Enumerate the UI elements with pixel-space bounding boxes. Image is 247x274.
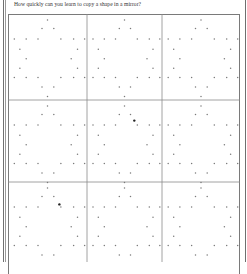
guide-dot <box>14 245 16 247</box>
guide-dot <box>237 163 239 165</box>
guide-dot <box>70 226 72 228</box>
guide-dot <box>37 206 39 208</box>
guide-dot <box>98 235 100 237</box>
guide-dot <box>70 58 72 60</box>
guide-dot <box>200 19 202 21</box>
guide-dot <box>206 196 208 198</box>
guide-dot <box>152 67 154 69</box>
guide-dot <box>37 124 39 126</box>
guide-dot <box>230 49 232 51</box>
guide-dot <box>200 105 202 107</box>
guide-dot <box>226 163 228 165</box>
guide-dot <box>92 163 94 165</box>
guide-dot <box>152 235 154 237</box>
guide-dot <box>41 114 43 116</box>
guide-dot <box>41 86 43 88</box>
guide-dot <box>214 206 216 208</box>
guide-dot <box>167 245 169 247</box>
guide-dot <box>159 245 161 247</box>
guide-dot <box>119 86 121 88</box>
guide-dot <box>14 38 16 40</box>
guide-dot <box>191 38 193 40</box>
guide-dot <box>206 254 208 256</box>
guide-dot <box>146 58 148 60</box>
guide-dot <box>191 245 193 247</box>
guide-dot <box>224 58 226 60</box>
guide-dot <box>200 96 202 98</box>
guide-dot <box>77 153 79 155</box>
marked-dot <box>58 203 60 205</box>
guide-dot <box>119 172 121 174</box>
guide-dot <box>41 254 43 256</box>
guide-dot <box>119 196 121 198</box>
guide-dot <box>237 124 239 126</box>
guide-dot <box>230 235 232 237</box>
star-cell-3-2 <box>92 187 160 256</box>
guide-dot <box>98 217 100 219</box>
guide-dot <box>25 206 27 208</box>
guide-dot <box>115 124 117 126</box>
guide-dot <box>226 206 228 208</box>
guide-dot <box>237 77 239 79</box>
guide-dot <box>149 124 151 126</box>
guide-dot <box>47 96 49 98</box>
guide-dot <box>230 135 232 137</box>
guide-dot <box>104 206 106 208</box>
guide-dot <box>173 49 175 51</box>
guide-dot <box>53 28 55 30</box>
guide-dot <box>206 172 208 174</box>
guide-dot <box>152 49 154 51</box>
guide-dot <box>130 28 132 30</box>
guide-dot <box>41 196 43 198</box>
guide-dot <box>47 187 49 189</box>
guide-dot <box>25 163 27 165</box>
star-cell-1-1 <box>14 19 86 97</box>
guide-dot <box>14 163 16 165</box>
guide-dot <box>159 124 161 126</box>
guide-dot <box>137 124 139 126</box>
guide-dot <box>173 235 175 237</box>
guide-dot <box>60 38 62 40</box>
guide-dot <box>115 245 117 247</box>
guide-dot <box>60 206 62 208</box>
guide-dot <box>179 124 181 126</box>
guide-dot <box>179 163 181 165</box>
guide-dot <box>230 67 232 69</box>
guide-dot <box>191 206 193 208</box>
guide-dot <box>206 114 208 116</box>
star-cell-3-1 <box>14 187 86 256</box>
guide-dot <box>119 114 121 116</box>
guide-dot <box>41 28 43 30</box>
guide-dot <box>237 245 239 247</box>
guide-dot <box>130 196 132 198</box>
guide-dot <box>60 245 62 247</box>
guide-dot <box>130 254 132 256</box>
guide-dot <box>53 114 55 116</box>
guide-dot <box>195 28 197 30</box>
guide-dot <box>104 245 106 247</box>
guide-dot <box>159 77 161 79</box>
guide-dot <box>25 226 27 228</box>
guide-dot <box>115 206 117 208</box>
guide-dot <box>104 124 106 126</box>
guide-dot <box>224 144 226 146</box>
guide-dot <box>73 38 75 40</box>
guide-dot <box>200 187 202 189</box>
guide-dot <box>37 38 39 40</box>
guide-dot <box>173 67 175 69</box>
guide-dot <box>98 135 100 137</box>
guide-dot <box>19 217 21 219</box>
guide-dot <box>226 124 228 126</box>
guide-dot <box>19 235 21 237</box>
guide-dot <box>104 58 106 60</box>
guide-dot <box>77 217 79 219</box>
guide-dot <box>98 153 100 155</box>
guide-dot <box>200 182 202 184</box>
guide-dot <box>237 206 239 208</box>
guide-dot <box>191 124 193 126</box>
guide-dot <box>98 67 100 69</box>
guide-dot <box>124 96 126 98</box>
guide-dot <box>25 245 27 247</box>
guide-dot <box>167 163 169 165</box>
guide-dot <box>159 206 161 208</box>
